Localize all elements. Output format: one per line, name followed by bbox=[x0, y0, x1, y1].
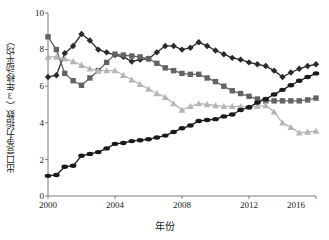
series-dark-diamond-upper-marker bbox=[170, 43, 176, 49]
series-light-triangle-marker bbox=[128, 76, 135, 82]
series-dark-dot-rising-marker bbox=[271, 92, 278, 96]
series-gray-square-marker bbox=[62, 71, 67, 76]
series-gray-square-marker bbox=[137, 54, 142, 59]
series-dark-dot-rising bbox=[45, 71, 320, 178]
series-dark-dot-rising-line bbox=[48, 73, 316, 175]
series-dark-dot-rising-marker bbox=[204, 118, 211, 122]
series-dark-dot-rising-marker bbox=[162, 133, 169, 137]
series-dark-diamond-upper-marker bbox=[237, 56, 243, 62]
series-dark-diamond-upper-marker bbox=[304, 63, 310, 69]
series-dark-diamond-upper-marker bbox=[45, 74, 51, 80]
series-gray-square-marker bbox=[54, 47, 59, 52]
series-dark-dot-rising-marker bbox=[313, 71, 320, 75]
series-dark-dot-rising-marker bbox=[112, 142, 119, 146]
series-dark-diamond-upper-marker bbox=[296, 66, 302, 72]
series-gray-square-marker bbox=[196, 72, 201, 77]
series-dark-diamond-upper-marker bbox=[129, 58, 135, 64]
series-light-triangle bbox=[45, 54, 320, 136]
series-dark-dot-rising-marker bbox=[70, 164, 77, 168]
series-gray-square-marker bbox=[87, 75, 92, 80]
series-dark-dot-rising-marker bbox=[45, 174, 52, 178]
series-dark-dot-rising-marker bbox=[145, 137, 152, 141]
series-dark-dot-rising-marker bbox=[120, 141, 127, 145]
series-dark-diamond-upper-marker bbox=[254, 61, 260, 67]
series-dark-dot-rising-marker bbox=[187, 123, 194, 127]
series-dark-dot-rising-marker bbox=[237, 108, 244, 112]
series-dark-dot-rising-marker bbox=[103, 146, 110, 150]
series-dark-diamond-upper-marker bbox=[212, 47, 218, 53]
series-gray-square-marker bbox=[179, 71, 184, 76]
series-dark-dot-rising-marker bbox=[95, 150, 102, 154]
series-gray-square-marker bbox=[221, 84, 226, 89]
series-dark-dot-rising-marker bbox=[61, 165, 68, 169]
series-dark-dot-rising-marker bbox=[53, 173, 60, 177]
chart-container: 出口竞争力指数（3年移动平均） 年份 10 8 6 4 2 0 2000 200… bbox=[0, 0, 329, 240]
series-dark-diamond-upper-marker bbox=[229, 55, 235, 61]
series-gray-square-marker bbox=[70, 78, 75, 83]
series-gray-square-marker bbox=[297, 98, 302, 103]
series-gray-square-marker bbox=[104, 60, 109, 65]
series-dark-dot-rising-marker bbox=[262, 97, 269, 101]
series-dark-dot-rising-marker bbox=[304, 75, 311, 79]
series-dark-dot-rising-marker bbox=[246, 105, 253, 109]
series-gray-square-marker bbox=[305, 97, 310, 102]
series-dark-diamond-upper-marker bbox=[263, 63, 269, 69]
series-dark-diamond-upper-marker bbox=[204, 43, 210, 49]
series-light-triangle-marker bbox=[137, 81, 144, 87]
series-gray-square-marker bbox=[112, 51, 117, 56]
series-gray-square-marker bbox=[79, 83, 84, 88]
series-dark-dot-rising-marker bbox=[221, 114, 228, 118]
series-gray-square-marker bbox=[146, 56, 151, 61]
series-gray-square-marker bbox=[171, 68, 176, 73]
series-dark-dot-rising-marker bbox=[212, 117, 219, 121]
series-dark-dot-rising-marker bbox=[229, 112, 236, 116]
series-dark-diamond-upper-marker bbox=[103, 49, 109, 55]
series-dark-diamond-upper-marker bbox=[246, 59, 252, 65]
series-dark-diamond-upper-marker bbox=[221, 51, 227, 57]
plot-area bbox=[0, 0, 329, 240]
series-light-triangle-marker bbox=[153, 90, 160, 96]
series-dark-diamond-upper-marker bbox=[313, 61, 319, 67]
series-gray-square-marker bbox=[230, 88, 235, 93]
series-gray-square-marker bbox=[188, 72, 193, 77]
series-gray-square-marker bbox=[163, 65, 168, 70]
data-series-layer bbox=[45, 31, 320, 178]
series-gray-square-marker bbox=[288, 98, 293, 103]
series-gray-square-marker bbox=[246, 94, 251, 99]
series-light-triangle-marker bbox=[120, 72, 127, 78]
series-gray-square-marker bbox=[313, 95, 318, 100]
series-gray-square-marker bbox=[213, 79, 218, 84]
series-gray-square-marker bbox=[129, 53, 134, 58]
series-light-triangle-marker bbox=[287, 124, 294, 130]
series-gray-square-marker bbox=[45, 34, 50, 39]
series-dark-dot-rising-marker bbox=[288, 83, 295, 87]
series-dark-dot-rising-marker bbox=[78, 154, 85, 158]
series-dark-dot-rising-marker bbox=[128, 139, 135, 143]
series-gray-square-marker bbox=[280, 98, 285, 103]
series-dark-dot-rising-marker bbox=[254, 100, 261, 104]
series-gray-square-marker bbox=[271, 98, 276, 103]
series-dark-dot-rising-marker bbox=[296, 79, 303, 83]
series-dark-dot-rising-marker bbox=[154, 135, 161, 139]
series-dark-diamond-upper-marker bbox=[53, 72, 59, 78]
series-gray-square-marker bbox=[121, 52, 126, 57]
series-dark-dot-rising-marker bbox=[195, 119, 202, 123]
series-light-triangle-marker bbox=[145, 86, 152, 92]
series-dark-dot-rising-marker bbox=[137, 138, 144, 142]
series-dark-diamond-upper-marker bbox=[179, 46, 185, 52]
series-gray-square-marker bbox=[204, 75, 209, 80]
series-dark-dot-rising-marker bbox=[179, 126, 186, 130]
series-gray-square-marker bbox=[238, 91, 243, 96]
series-dark-dot-rising-marker bbox=[170, 130, 177, 134]
series-gray-square-marker bbox=[154, 61, 159, 66]
series-dark-dot-rising-marker bbox=[279, 88, 286, 92]
series-dark-diamond-upper-marker bbox=[288, 69, 294, 75]
series-dark-dot-rising-marker bbox=[87, 152, 94, 156]
